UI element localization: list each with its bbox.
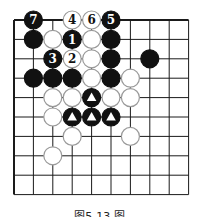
white-stone	[44, 30, 62, 48]
black-stone: 5	[102, 11, 120, 29]
black-stone: 1	[63, 30, 81, 48]
black-stone	[44, 69, 62, 87]
move-number: 4	[68, 13, 76, 27]
white-stone	[102, 89, 120, 107]
black-stone	[63, 69, 81, 87]
move-number: 3	[49, 52, 57, 66]
white-stone	[44, 147, 62, 165]
black-stone: 3	[44, 50, 62, 68]
move-number: 6	[87, 13, 95, 27]
white-stone: 2	[63, 50, 81, 68]
black-stone	[102, 50, 120, 68]
black-stone	[24, 69, 42, 87]
black-stone	[63, 108, 81, 126]
move-number: 7	[29, 13, 37, 27]
white-stone	[44, 108, 62, 126]
black-stone	[102, 30, 120, 48]
black-stone	[102, 69, 120, 87]
white-stone	[121, 69, 139, 87]
move-number: 5	[107, 13, 115, 27]
move-number: 1	[68, 33, 76, 47]
white-stone	[44, 89, 62, 107]
black-stone	[24, 30, 42, 48]
move-number: 2	[68, 52, 76, 66]
white-stone: 6	[83, 11, 101, 29]
figure-caption: 图5-13 图	[0, 211, 199, 217]
white-stone	[121, 127, 139, 145]
white-stone	[63, 127, 81, 145]
black-stone	[83, 89, 101, 107]
black-stone	[83, 108, 101, 126]
white-stone	[83, 69, 101, 87]
board-grid	[14, 20, 189, 195]
white-stone	[83, 30, 101, 48]
black-stone	[141, 50, 159, 68]
white-stone	[83, 50, 101, 68]
white-stone: 4	[63, 11, 81, 29]
go-board: 7465132	[0, 0, 199, 210]
white-stone	[121, 89, 139, 107]
black-stone: 7	[24, 11, 42, 29]
white-stone	[63, 89, 81, 107]
black-stone	[102, 108, 120, 126]
